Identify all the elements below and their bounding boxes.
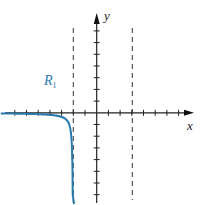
- y-axis-arrow-icon: [94, 13, 100, 24]
- y-axis-label: y: [102, 8, 110, 23]
- region-label: R1: [43, 73, 57, 90]
- region-label-main: R: [43, 73, 53, 88]
- curve: [1, 114, 74, 205]
- graph: x y R1: [0, 0, 202, 205]
- region-label-subscript: 1: [53, 81, 57, 90]
- x-axis-label: x: [186, 118, 193, 133]
- x-axis-arrow-icon: [184, 110, 194, 116]
